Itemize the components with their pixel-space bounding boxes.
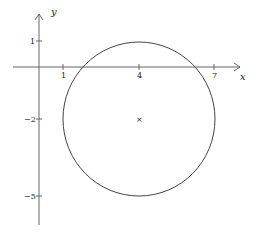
y-tick-label-neg5: −5 (24, 192, 36, 201)
y-tick-label-1: 1 (30, 37, 35, 46)
x-tick-label-7: 7 (212, 71, 217, 80)
x-tick-label-4: 4 (137, 71, 142, 80)
coordinate-plane: x y 1 4 7 1 −2 −5 × (0, 0, 258, 238)
circle-center-marker: × (136, 115, 143, 124)
y-tick-label-neg2: −2 (24, 115, 36, 124)
y-axis-label: y (50, 6, 57, 17)
x-tick-label-1: 1 (61, 71, 66, 80)
x-axis-label: x (240, 71, 246, 82)
